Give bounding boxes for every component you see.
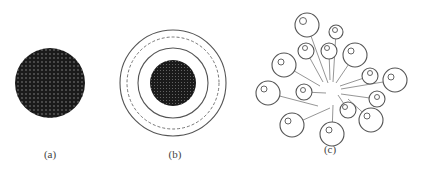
tether-line (341, 94, 369, 98)
tether-line (340, 79, 362, 86)
sphere (295, 13, 319, 37)
panel-a: (a) (15, 48, 85, 161)
tether-line (294, 71, 320, 86)
tether-line (332, 105, 333, 122)
tether-line (338, 95, 344, 103)
sphere (272, 53, 296, 77)
panel-b: (b) (120, 30, 226, 161)
panel-c: (c) (256, 13, 407, 156)
sphere (256, 81, 280, 105)
dense-disc (15, 48, 85, 118)
sphere (280, 113, 304, 137)
sphere (343, 43, 367, 67)
figure: (a) (b) (c) (0, 0, 422, 171)
panel-a-label: (a) (44, 148, 57, 161)
tether-line (341, 82, 383, 89)
sphere (383, 68, 407, 92)
sphere (359, 108, 383, 132)
tether-line (312, 92, 326, 93)
sphere (369, 91, 385, 107)
sphere (321, 43, 337, 59)
tether-line (336, 65, 348, 83)
tether-line (329, 59, 330, 80)
tether-line (303, 108, 330, 120)
panel-b-label: (b) (169, 148, 182, 161)
panel-c-label: (c) (324, 143, 337, 156)
sphere (340, 102, 356, 118)
tether-line (310, 58, 323, 82)
dark-core (150, 60, 196, 106)
